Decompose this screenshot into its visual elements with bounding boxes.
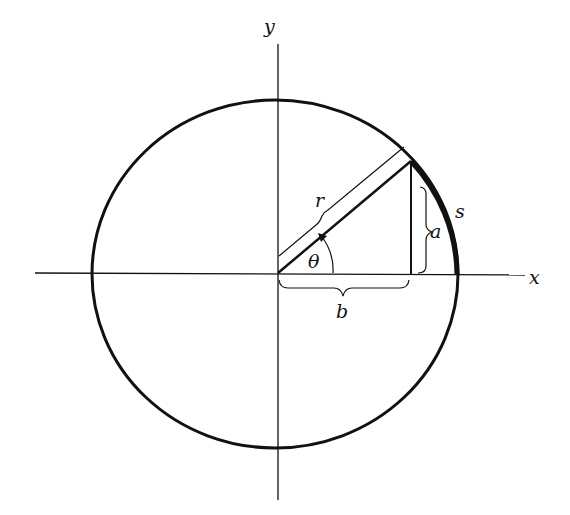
brace-r xyxy=(279,147,404,256)
opposite-label: a xyxy=(430,220,441,242)
brace-b xyxy=(279,280,409,296)
x-axis xyxy=(35,273,525,275)
radius-line xyxy=(278,161,411,273)
angle-label: θ xyxy=(308,250,320,272)
x-axis-label: x xyxy=(529,266,540,288)
arc-label: s xyxy=(455,200,465,222)
adjacent-label: b xyxy=(336,300,348,322)
arc-s xyxy=(411,161,457,274)
radius-label: r xyxy=(315,189,326,211)
angle-arc xyxy=(322,237,333,273)
circle-diagram: y x r a b θ s xyxy=(0,0,570,515)
y-axis-label: y xyxy=(263,15,275,37)
